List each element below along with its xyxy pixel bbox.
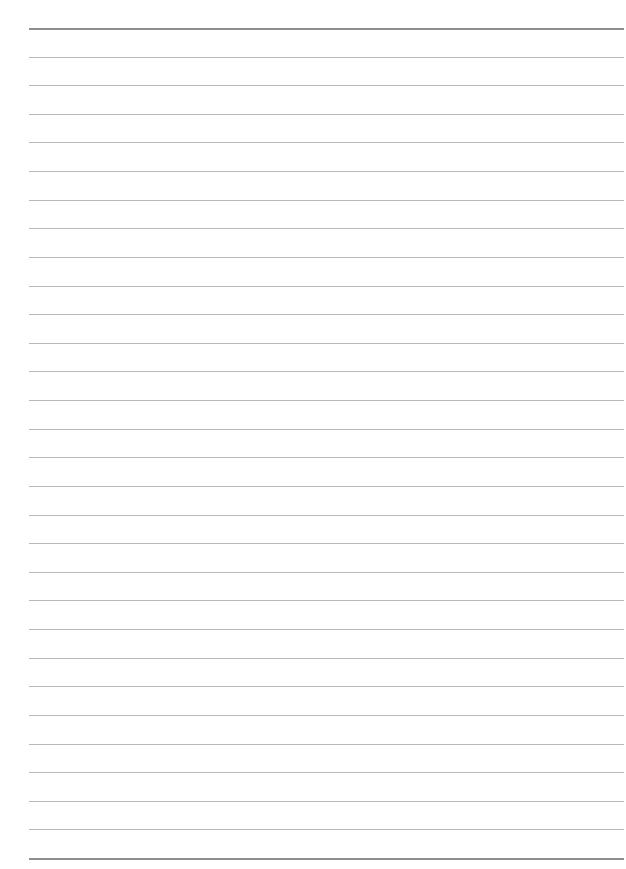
ruled-paper-sheet [0, 0, 626, 869]
heavy-rule-line [29, 858, 624, 860]
rule-line [29, 57, 624, 58]
rule-line [29, 515, 624, 516]
rule-line [29, 286, 624, 287]
rule-line [29, 572, 624, 573]
rule-line [29, 801, 624, 802]
rule-line [29, 114, 624, 115]
rule-line [29, 85, 624, 86]
rule-line [29, 400, 624, 401]
rule-line [29, 543, 624, 544]
rule-line [29, 600, 624, 601]
rule-line [29, 257, 624, 258]
rule-line [29, 457, 624, 458]
rule-line [29, 200, 624, 201]
rule-line [29, 343, 624, 344]
rule-line [29, 171, 624, 172]
rule-line [29, 744, 624, 745]
rule-line [29, 772, 624, 773]
rule-line [29, 228, 624, 229]
rule-line [29, 629, 624, 630]
rule-line [29, 142, 624, 143]
rule-line [29, 658, 624, 659]
rule-line [29, 429, 624, 430]
rule-line [29, 314, 624, 315]
heavy-rule-line [29, 28, 624, 30]
rule-line [29, 686, 624, 687]
rule-line [29, 829, 624, 830]
rule-line [29, 715, 624, 716]
rule-line [29, 486, 624, 487]
rule-line [29, 371, 624, 372]
